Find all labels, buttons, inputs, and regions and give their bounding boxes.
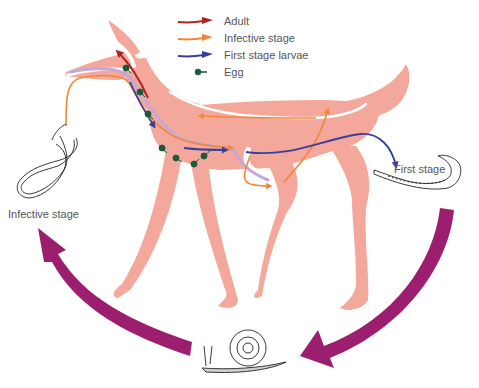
legend-label: Infective stage [224, 32, 295, 44]
red-arrow-icon [176, 15, 214, 27]
legend-item-egg: Egg [176, 63, 308, 80]
cycle-arrow-firststage-to-snail [300, 208, 454, 368]
egg-dot-icon [176, 66, 214, 78]
legend-item-infective: Infective stage [176, 29, 308, 46]
legend-item-adult: Adult [176, 12, 308, 29]
legend-item-first-stage: First stage larvae [176, 46, 308, 63]
first-stage-label: First stage [394, 163, 445, 175]
orange-arrow-icon [176, 32, 214, 44]
legend-label: Egg [224, 66, 244, 78]
legend: Adult Infective stage First stage larvae… [176, 12, 308, 80]
legend-label: Adult [224, 15, 249, 27]
blue-arrow-icon [176, 49, 214, 61]
legend-label: First stage larvae [224, 49, 308, 61]
infective-stage-label: Infective stage [8, 208, 79, 220]
infective-stage-larva-drawing [17, 124, 77, 198]
snail-host-drawing [202, 330, 286, 373]
